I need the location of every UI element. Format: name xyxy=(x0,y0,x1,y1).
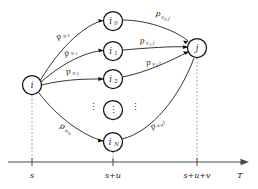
node-iN-subscript: N xyxy=(113,141,119,147)
edge-i-to-iN xyxy=(39,93,103,141)
svg-text:p: p xyxy=(139,36,145,45)
markov-transition-diagram: s s+u s+u+v T ⋮ ⋮ i i 0 i 1 i 2 ⋮ i N j … xyxy=(0,0,258,189)
left-vertical-dots-icon: ⋮ xyxy=(89,102,98,112)
edge-i0-to-j xyxy=(123,20,189,41)
svg-text:j: j xyxy=(152,39,155,46)
svg-text:j: j xyxy=(167,15,171,22)
node-ellipsis-dots-icon: ⋮ xyxy=(109,105,118,115)
svg-text:1: 1 xyxy=(75,51,79,56)
node-i1-label: i xyxy=(109,46,112,56)
node-j[interactable]: j xyxy=(188,39,207,58)
edge-label-p-vNj: p v N j xyxy=(148,115,167,133)
node-i[interactable]: i xyxy=(23,76,42,95)
arrowhead-iN xyxy=(98,138,104,142)
edge-label-p-u2: p u 2 xyxy=(65,64,81,78)
node-i1-circle[interactable] xyxy=(104,42,123,61)
edge-label-p-v1j: p v 1 j xyxy=(139,35,155,47)
node-i0[interactable]: i 0 xyxy=(104,12,123,31)
node-iN-circle[interactable] xyxy=(104,133,123,152)
tick-label-s-plus-u: s+u xyxy=(105,171,121,180)
svg-text:1: 1 xyxy=(149,43,152,47)
node-i0-label: i xyxy=(109,16,112,26)
node-iN[interactable]: i N xyxy=(104,133,123,152)
arrowhead-i1 xyxy=(98,49,103,53)
node-i2-label: i xyxy=(109,74,112,84)
right-vertical-dots-icon: ⋮ xyxy=(131,102,140,112)
node-i0-circle[interactable] xyxy=(104,12,123,31)
axis-title-T: T xyxy=(237,171,243,180)
edge-label-p-u0: p u 0 xyxy=(54,27,71,44)
edge-label-p-uN: p u N xyxy=(58,121,75,137)
tick-label-s: s xyxy=(30,171,34,180)
svg-text:p: p xyxy=(65,66,72,76)
tick-label-s-plus-u-plus-v: s+u+v xyxy=(183,171,211,180)
node-i2[interactable]: i 2 xyxy=(104,70,123,89)
axis-arrowhead xyxy=(241,159,250,165)
node-i0-subscript: 0 xyxy=(114,20,118,26)
node-i2-subscript: 2 xyxy=(113,78,118,84)
node-i1[interactable]: i 1 xyxy=(104,42,123,61)
svg-text:p: p xyxy=(62,48,71,58)
svg-text:0: 0 xyxy=(67,33,72,38)
edge-label-p-v0j: p v 0 j xyxy=(155,9,172,23)
arrowhead-i2 xyxy=(98,77,103,81)
svg-text:2: 2 xyxy=(75,72,80,77)
edge-i-to-i2 xyxy=(42,79,104,85)
node-ellipsis: ⋮ xyxy=(104,101,123,120)
node-i-label: i xyxy=(31,80,34,90)
node-iN-label: i xyxy=(109,137,112,147)
node-i1-subscript: 1 xyxy=(114,50,117,56)
node-i2-circle[interactable] xyxy=(104,70,123,89)
svg-text:p: p xyxy=(145,58,152,68)
edge-i1-to-j xyxy=(123,47,188,50)
